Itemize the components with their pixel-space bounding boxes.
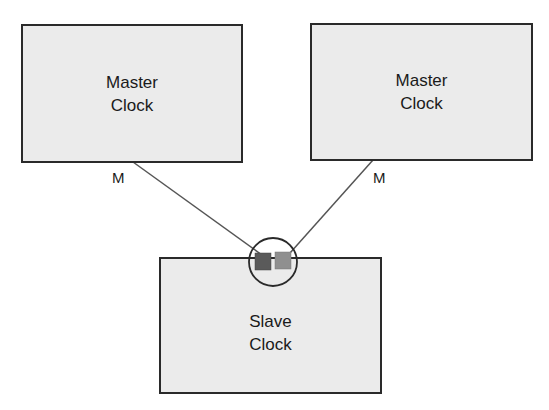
port-highlight-layer [0,0,549,410]
slave-port-right-icon [275,252,291,269]
slave-port-left-icon [255,253,271,270]
